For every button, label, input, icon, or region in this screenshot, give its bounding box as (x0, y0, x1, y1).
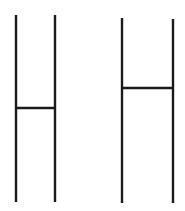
left-h-figure (16, 15, 55, 202)
diagram-canvas (0, 0, 185, 211)
right-h-figure (122, 18, 173, 203)
